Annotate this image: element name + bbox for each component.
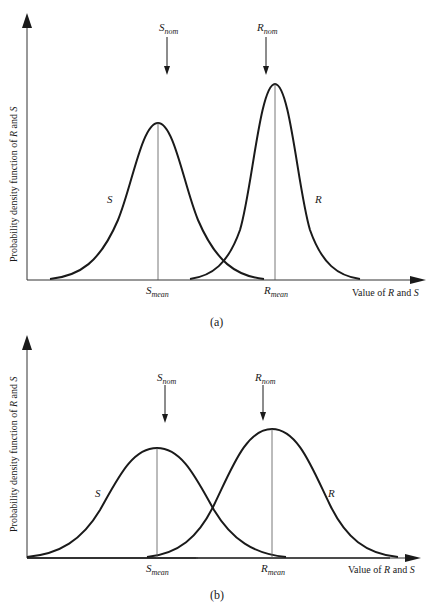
figure-caption-b: (b) bbox=[210, 588, 224, 603]
s-curve-label: S bbox=[107, 194, 113, 205]
x-axis-label: Value of R and S bbox=[352, 288, 419, 298]
diagram-canvas bbox=[0, 0, 440, 612]
figure-a bbox=[22, 13, 426, 284]
s-mean-label: Smean bbox=[146, 285, 169, 299]
r-curve bbox=[147, 429, 398, 557]
figure-b bbox=[22, 335, 421, 562]
s-nom-arrow-icon bbox=[162, 414, 168, 423]
s-nom-label: Snom bbox=[159, 22, 178, 36]
figure-caption-a: (a) bbox=[210, 315, 223, 330]
r-nom-label: Rnom bbox=[257, 22, 278, 36]
r-curve-label: R bbox=[328, 488, 335, 499]
r-curve-label: R bbox=[315, 194, 322, 205]
y-axis-label: Probability density function of R and S bbox=[8, 106, 19, 262]
x-axis-arrow-icon bbox=[405, 554, 421, 562]
s-curve bbox=[27, 448, 286, 557]
y-axis-arrow-icon bbox=[22, 335, 32, 350]
y-axis-arrow-icon bbox=[22, 13, 32, 28]
s-curve bbox=[50, 123, 264, 279]
r-mean-label: Rmean bbox=[261, 563, 285, 577]
s-curve-label: S bbox=[95, 488, 101, 499]
x-axis-label: Value of R and S bbox=[348, 565, 415, 575]
s-nom-arrow-icon bbox=[164, 66, 170, 75]
r-nom-arrow-icon bbox=[260, 412, 266, 421]
r-mean-label: Rmean bbox=[264, 285, 288, 299]
s-nom-label: Snom bbox=[157, 372, 176, 386]
y-axis-label: Probability density function of R and S bbox=[8, 376, 19, 532]
r-nom-arrow-icon bbox=[263, 66, 269, 75]
r-nom-label: Rnom bbox=[255, 372, 276, 386]
s-mean-label: Smean bbox=[146, 563, 169, 577]
x-axis-arrow-icon bbox=[410, 276, 426, 284]
